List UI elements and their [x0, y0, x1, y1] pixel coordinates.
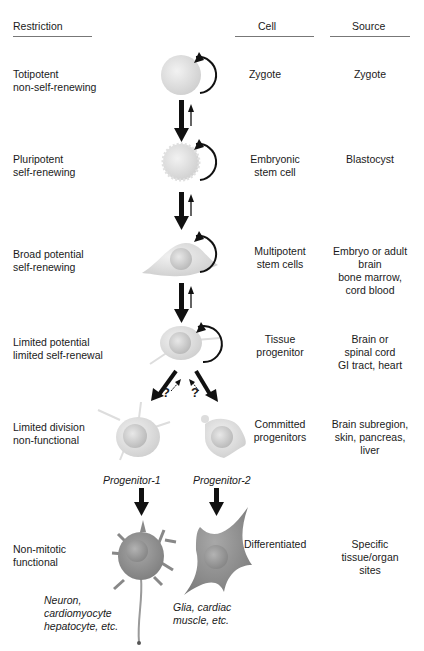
source-label-specific-sites: Specific tissue/organ sites	[330, 538, 410, 577]
cell-line: Committed	[250, 418, 310, 431]
restriction-line: functional	[13, 556, 66, 569]
restriction-label-limited-division: Limited division non-functional	[13, 421, 85, 447]
restriction-label-pluripotent: Pluripotent self-renewing	[13, 153, 75, 179]
cell-label-tissue-progenitor: Tissue progenitor	[250, 333, 310, 359]
source-line: bone marrow,	[330, 271, 410, 284]
restriction-line: Limited division	[13, 421, 85, 434]
source-line: liver	[328, 444, 412, 457]
differentiation-arrow-icon	[174, 283, 194, 323]
restriction-line: Limited potential	[13, 336, 103, 349]
restriction-label-broad-potential: Broad potential self-renewing	[13, 248, 84, 274]
cell-label-multipotent-stem-cells: Multipotent stem cells	[250, 245, 310, 271]
source-label-brain-spinal: Brain or spinal cord GI tract, heart	[330, 333, 410, 372]
glia-cell-icon	[184, 507, 252, 595]
multipotent-stem-cell-icon	[142, 231, 218, 276]
source-line: cord blood	[330, 284, 410, 297]
source-line: GI tract, heart	[330, 359, 410, 372]
restriction-label-non-mitotic: Non-mitotic functional	[13, 543, 66, 569]
neuron-cell-icon	[112, 520, 176, 645]
question-mark-right: ?	[191, 386, 199, 399]
source-line: Embryo or adult	[330, 245, 410, 258]
cell-line: stem cell	[245, 166, 305, 179]
cell-label-differentiated: Differentiated	[244, 538, 306, 551]
restriction-line: non-self-renewing	[13, 81, 96, 94]
source-line: Brain subregion,	[328, 418, 412, 431]
source-line: tissue/organ	[330, 551, 410, 564]
source-line: spinal cord	[330, 346, 410, 359]
source-label-embryo-adult: Embryo or adult brain bone marrow, cord …	[330, 245, 410, 297]
tissue-progenitor-cell-icon	[150, 322, 222, 364]
restriction-line: Pluripotent	[13, 153, 75, 166]
restriction-line: limited self-renewal	[13, 349, 103, 362]
source-line: brain	[330, 258, 410, 271]
outcome-label-neuron: Neuron, cardiomyocyte hepatocyte, etc.	[44, 594, 118, 633]
source-line: skin, pancreas,	[328, 431, 412, 444]
cell-line: Differentiated	[244, 538, 306, 551]
outcome-line: hepatocyte, etc.	[44, 620, 118, 633]
differentiation-arrow-icon	[134, 488, 149, 516]
restriction-line: self-renewing	[13, 261, 84, 274]
restriction-line: Broad potential	[13, 248, 84, 261]
differentiation-arrow-icon	[174, 100, 194, 142]
restriction-label-totipotent: Totipotent non-self-renewing	[13, 68, 96, 94]
source-line: Zygote	[330, 68, 410, 81]
differentiation-arrow-icon	[209, 488, 224, 516]
progenitor-2-label: Progenitor-2	[193, 474, 251, 487]
cell-label-embryonic-stem-cell: Embryonic stem cell	[245, 153, 305, 179]
zygote-cell-icon	[161, 52, 216, 95]
outcome-label-glia: Glia, cardiac muscle, etc.	[173, 601, 231, 627]
source-line: Brain or	[330, 333, 410, 346]
outcome-line: Neuron,	[44, 594, 118, 607]
differentiation-arrow-icon	[174, 192, 194, 230]
source-line: Blastocyst	[330, 153, 410, 166]
question-mark-left: ?	[162, 386, 170, 399]
restriction-line: self-renewing	[13, 166, 75, 179]
cell-line: Zygote	[235, 68, 295, 81]
source-label-brain-subregion: Brain subregion, skin, pancreas, liver	[328, 418, 412, 457]
embryonic-stem-cell-icon	[163, 139, 216, 180]
restriction-line: Non-mitotic	[13, 543, 66, 556]
progenitor-1-label: Progenitor-1	[103, 474, 161, 487]
progenitor-2-cell-icon	[201, 415, 246, 458]
cell-line: progenitors	[250, 431, 310, 444]
cell-line: Multipotent	[250, 245, 310, 258]
cell-label-committed-progenitors: Committed progenitors	[250, 418, 310, 444]
source-label-zygote: Zygote	[330, 68, 410, 81]
restriction-line: Totipotent	[13, 68, 96, 81]
progenitor-1-cell-icon	[98, 402, 170, 460]
source-line: Specific	[330, 538, 410, 551]
outcome-line: Glia, cardiac	[173, 601, 231, 614]
cell-line: Embryonic	[245, 153, 305, 166]
cell-line: Tissue	[250, 333, 310, 346]
outcome-line: cardiomyocyte	[44, 607, 118, 620]
restriction-line: non-functional	[13, 434, 85, 447]
source-line: sites	[330, 564, 410, 577]
outcome-line: muscle, etc.	[173, 614, 231, 627]
branch-arrow-right-icon	[196, 371, 218, 402]
restriction-label-limited-potential: Limited potential limited self-renewal	[13, 336, 103, 362]
cell-line: progenitor	[250, 346, 310, 359]
source-label-blastocyst: Blastocyst	[330, 153, 410, 166]
cell-label-zygote: Zygote	[235, 68, 295, 81]
cell-line: stem cells	[250, 258, 310, 271]
